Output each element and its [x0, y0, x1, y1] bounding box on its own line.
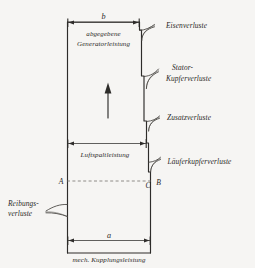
flow-direction-arrow-up — [105, 83, 112, 119]
dimension-line-luftspaltleistung — [68, 139, 147, 148]
label-loss-additional: Zusatzverluste — [167, 113, 212, 122]
branch-zusatzverluste — [147, 116, 160, 131]
node-marker-c: C — [145, 181, 151, 190]
label-loss-friction-line1: Reibungs- — [7, 199, 39, 208]
construction-line-acb — [65, 177, 152, 186]
label-airgap-power: Luftspaltleistung — [80, 151, 130, 159]
dimension-letter-b: b — [101, 12, 105, 21]
stream-right-edge-staircase — [140, 22, 151, 253]
node-marker-a: A — [58, 177, 64, 186]
dimension-letter-a: a — [107, 231, 111, 240]
label-generator-output-line2: Generatorleistung — [77, 40, 130, 48]
branch-reibungsverluste — [46, 204, 67, 216]
label-loss-iron: Eisenverluste — [165, 21, 208, 30]
label-mechanical-coupling-power: mech. Kupplungsleistung — [72, 256, 145, 264]
label-loss-friction-line2: verluste — [8, 209, 33, 218]
node-marker-b: B — [156, 178, 161, 187]
power-flow-diagram: b abgegebene Generatorleistung Luftspalt… — [0, 0, 255, 268]
branch-stator-kupferverluste — [144, 69, 158, 89]
label-loss-rotor-copper: Läuferkupferverluste — [167, 157, 233, 166]
label-loss-stator-copper-line2: Kupferverluste — [165, 74, 212, 83]
branch-laeuferkupferverluste — [149, 157, 161, 172]
sankey-diagram-canvas: b abgegebene Generatorleistung Luftspalt… — [0, 0, 255, 268]
label-loss-stator-copper-line1: Stator- — [172, 63, 194, 72]
label-generator-output-line1: abgegebene — [86, 30, 120, 38]
